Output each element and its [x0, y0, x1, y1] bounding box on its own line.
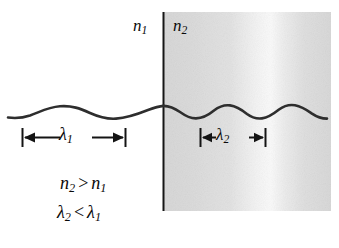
relation-n-left-symbol: n	[60, 173, 69, 193]
refractive-index-relation: n2>n1	[60, 174, 106, 194]
relation-lambda-operator: <	[71, 202, 87, 222]
relation-n-right-subscript: 1	[100, 181, 106, 195]
relation-lambda-right-symbol: λ	[87, 202, 95, 222]
medium-2-index-label: n2	[173, 17, 187, 36]
relation-n-right-symbol: n	[91, 173, 100, 193]
relation-lambda-left-subscript: 2	[65, 210, 71, 224]
wave-medium-1	[8, 106, 164, 119]
relation-n-operator: >	[75, 173, 91, 193]
lambda-2-label: λ2	[216, 126, 229, 145]
physics-refraction-figure: n1 n2 λ1 λ2 n2>n1 λ2<λ1	[0, 0, 339, 248]
medium-2-index-symbol: n	[173, 16, 182, 35]
lambda-1-label: λ1	[59, 125, 73, 145]
lambda-1-right-arrowhead	[113, 133, 124, 143]
medium-1-index-label: n1	[133, 17, 147, 36]
lambda-2-subscript: 2	[223, 133, 229, 146]
wavelength-relation: λ2<λ1	[57, 203, 101, 223]
lambda-1-left-arrowhead	[24, 133, 35, 143]
medium-1-index-symbol: n	[133, 16, 142, 35]
relation-lambda-right-subscript: 1	[95, 210, 101, 224]
diagram-canvas	[0, 0, 339, 248]
relation-lambda-left-symbol: λ	[57, 202, 65, 222]
lambda-1-symbol: λ	[59, 124, 67, 144]
lambda-1-dimension-line	[23, 128, 126, 147]
medium-2-shaded-region	[164, 12, 331, 211]
lambda-1-subscript: 1	[67, 132, 73, 146]
medium-1-index-subscript: 1	[142, 24, 148, 37]
medium-2-index-subscript: 2	[182, 24, 188, 37]
